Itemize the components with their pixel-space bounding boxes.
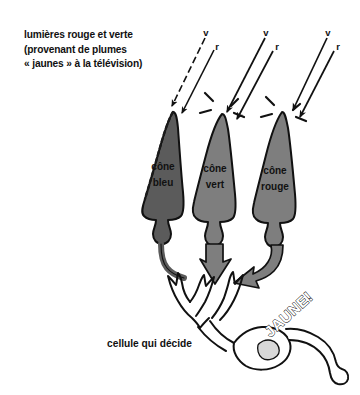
dendrite-left: [168, 273, 209, 328]
ray-v-1-dashed: [172, 38, 205, 106]
cone-rouge-body: [253, 112, 296, 247]
ray-label-r-2: r: [275, 41, 279, 52]
dendrite-trunk-lower: [198, 327, 226, 351]
axon: [286, 329, 348, 384]
cone-vert: cône vert: [193, 114, 236, 284]
cone-bleu-label-line2: bleu: [153, 177, 174, 188]
ray-label-r-3: r: [336, 41, 340, 52]
cone-vert-label-line2: vert: [206, 179, 225, 190]
cone-rouge-label-line2: rouge: [261, 181, 289, 192]
nucleus: [258, 340, 280, 360]
cone-rouge: cône rouge: [234, 112, 296, 288]
ray-r-2-solid: [237, 51, 273, 119]
cone-bleu: cône bleu: [142, 112, 184, 278]
cone-vert-label-line1: cône: [203, 163, 227, 174]
ray-label-v-1: v: [203, 27, 209, 38]
ray-r-1-solid: [182, 50, 214, 113]
cone-bleu-label-line1: cône: [151, 161, 175, 172]
ray-label-v-2: v: [263, 27, 269, 38]
retina-cone-diagram: v r v r v r cône bleu: [0, 0, 360, 395]
ray-label-r-1: r: [215, 41, 219, 52]
dendrite-trunk-upper: [210, 321, 234, 343]
ray-group-2: v r: [227, 27, 279, 119]
decision-cell-label: cellule qui décide: [107, 338, 192, 349]
dendrite-middle: [190, 275, 214, 316]
cone-rouge-label-line1: cône: [263, 165, 287, 176]
decision-cell: cellule qui décide: [107, 272, 348, 384]
ray-label-v-3: v: [325, 27, 331, 38]
